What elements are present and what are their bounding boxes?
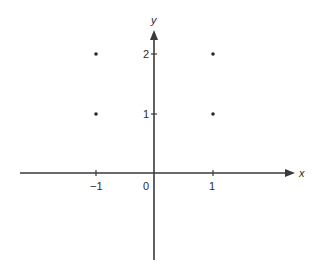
x-axis-label: x [298,167,305,179]
x-axis-arrow-icon [285,169,295,177]
y-axis-label: y [150,14,158,26]
origin-label: 0 [143,180,149,192]
point-1-2 [211,52,215,56]
point-1-1 [211,112,215,116]
y-axis-arrow-icon [150,30,158,40]
y-tick-label-1: 1 [143,108,149,120]
point-neg1-2 [94,52,98,56]
x-tick-label-neg1: −1 [90,180,103,192]
x-tick-label-pos1: 1 [209,180,215,192]
coordinate-plane: x y −1 1 0 2 1 [0,0,318,275]
point-neg1-1 [94,112,98,116]
y-tick-label-2: 2 [143,48,149,60]
